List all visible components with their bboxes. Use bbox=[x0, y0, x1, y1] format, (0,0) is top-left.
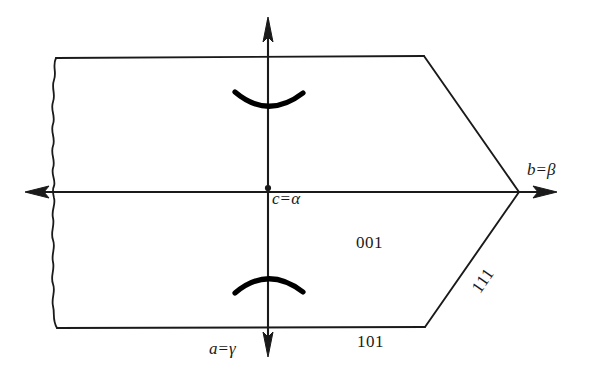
axis-label-b-eq: = bbox=[537, 160, 547, 179]
top-edge bbox=[56, 56, 424, 58]
face-index-101: 101 bbox=[357, 333, 384, 350]
axis-label-a-greek: γ bbox=[229, 339, 236, 358]
axis-label-a-var: a bbox=[209, 339, 218, 358]
bottom-edge bbox=[57, 327, 425, 328]
crystal-outline-svg bbox=[0, 0, 591, 372]
origin-label-eq: = bbox=[281, 189, 291, 208]
origin-label-var: c bbox=[272, 189, 280, 208]
origin-dot bbox=[265, 185, 271, 191]
axis-label-a-eq: = bbox=[219, 339, 229, 358]
crystal-diagram-figure: c=α b=β a=γ 001 101 111 bbox=[0, 0, 591, 372]
upper-right-diagonal-edge bbox=[424, 56, 519, 192]
face-index-001: 001 bbox=[356, 234, 383, 251]
axis-label-a-gamma: a=γ bbox=[209, 340, 236, 357]
axis-label-b-var: b bbox=[527, 160, 536, 179]
axis-label-b-greek: β bbox=[547, 160, 555, 179]
origin-label-c-alpha: c=α bbox=[272, 190, 300, 207]
axis-label-b-beta: b=β bbox=[527, 161, 556, 178]
lower-right-diagonal-edge bbox=[425, 192, 519, 327]
origin-label-greek: α bbox=[291, 189, 300, 208]
